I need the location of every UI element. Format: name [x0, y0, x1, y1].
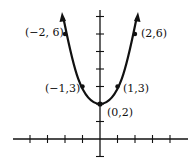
label-point-neg2-6: (−2, 6)	[25, 26, 64, 39]
parabola-graph: (−2, 6) (−1,3) (0,2) (1,3) (2,6)	[0, 0, 196, 166]
label-point-neg1-3: (−1,3)	[45, 82, 80, 95]
point-1-3	[115, 84, 119, 88]
label-point-0-2: (0,2)	[107, 106, 133, 119]
point-neg1-3	[80, 84, 84, 88]
label-point-1-3: (1,3)	[123, 82, 149, 95]
left-arrowhead-icon	[60, 12, 67, 22]
right-arrowhead-icon	[134, 12, 141, 22]
point-0-2	[97, 101, 102, 106]
label-point-2-6: (2,6)	[141, 27, 167, 40]
point-2-6	[133, 32, 137, 36]
